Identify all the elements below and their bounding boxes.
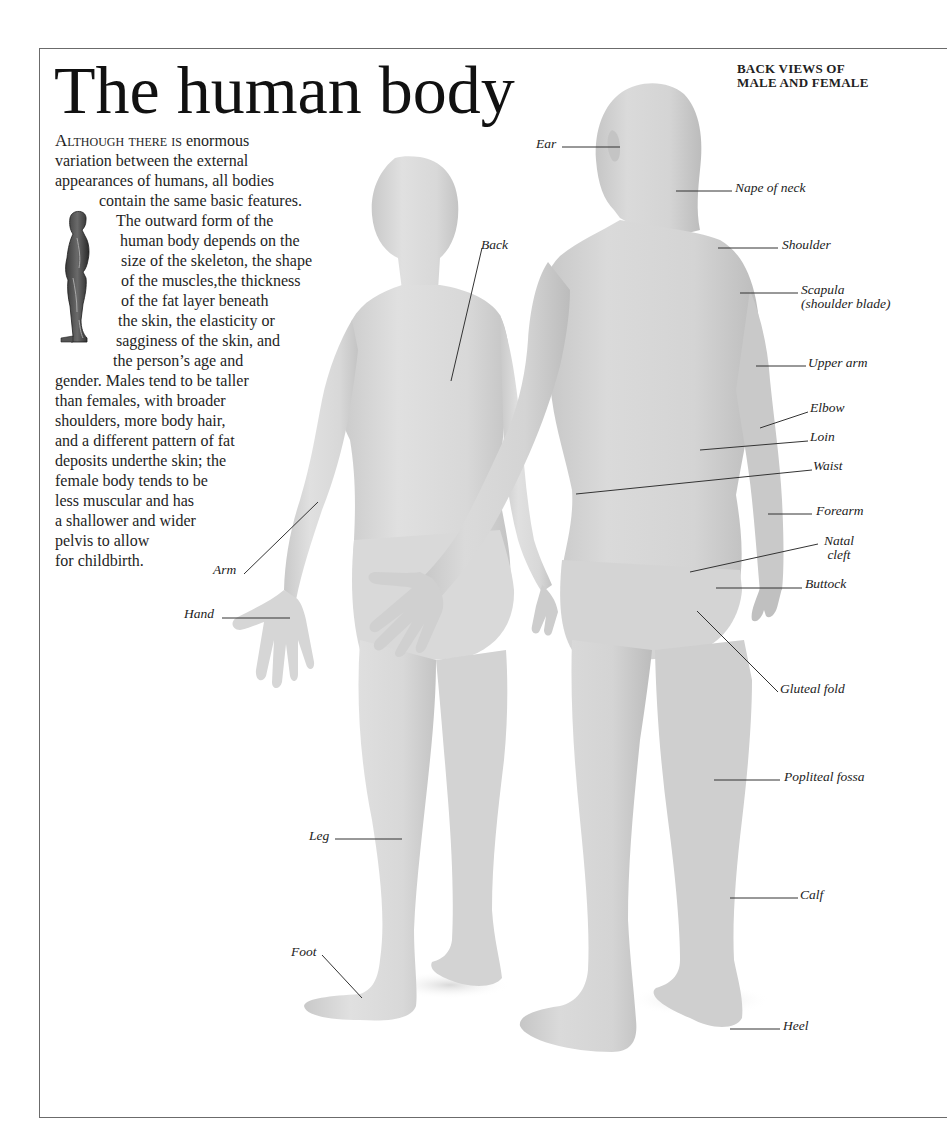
label-back: Back — [481, 238, 508, 252]
label-shoulder: Shoulder — [782, 238, 831, 252]
body-figures-illustration — [0, 0, 947, 1147]
label-ear: Ear — [536, 137, 556, 151]
label-popliteal-fossa: Popliteal fossa — [784, 770, 865, 784]
label-forearm: Forearm — [816, 504, 864, 518]
label-calf: Calf — [800, 888, 823, 902]
label-arm: Arm — [213, 563, 236, 577]
label-foot: Foot — [291, 945, 317, 959]
female-figure — [233, 156, 558, 1020]
label-scapula: Scapula (shoulder blade) — [801, 283, 891, 311]
label-buttock: Buttock — [805, 577, 846, 591]
label-upper-arm: Upper arm — [808, 356, 868, 370]
label-natal-cleft: Natal cleft — [824, 534, 854, 562]
label-elbow: Elbow — [810, 401, 845, 415]
label-waist: Waist — [813, 459, 843, 473]
label-loin: Loin — [810, 430, 835, 444]
label-leg: Leg — [309, 829, 329, 843]
label-gluteal-fold: Gluteal fold — [780, 682, 845, 696]
label-hand: Hand — [184, 607, 214, 621]
label-nape-of-neck: Nape of neck — [735, 181, 805, 195]
label-heel: Heel — [783, 1019, 808, 1033]
